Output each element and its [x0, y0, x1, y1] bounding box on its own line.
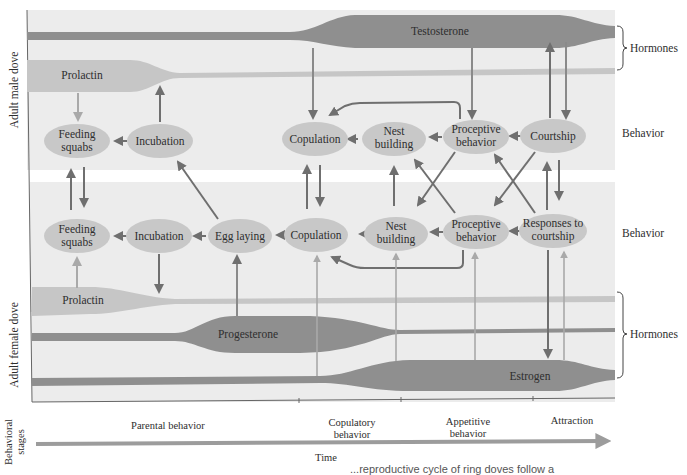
svg-text:Feeding: Feeding [58, 223, 95, 236]
svg-text:building: building [375, 138, 414, 151]
time-arrow [36, 441, 605, 444]
svg-text:behavior: behavior [456, 136, 496, 148]
svg-text:Behavioral: Behavioral [3, 419, 14, 465]
male-node-incubation: Incubation [127, 124, 193, 158]
male-node-nest-building: Nest building [362, 122, 426, 156]
female-node-responses-to-courtship: Responses to courtship [519, 214, 587, 248]
svg-text:Nest: Nest [385, 220, 407, 232]
progesterone-label: Progesterone [218, 328, 278, 341]
figure-caption-fragment: ...reproductive cycle of ring doves foll… [350, 463, 687, 475]
svg-text:Appetitive: Appetitive [446, 416, 491, 427]
svg-text:behavior: behavior [334, 429, 371, 440]
female-node-proceptive-behavior: Proceptive behavior [443, 215, 509, 249]
svg-text:behavior: behavior [456, 231, 496, 243]
male-prolactin-label: Prolactin [61, 69, 103, 81]
svg-text:Courtship: Courtship [530, 130, 576, 143]
svg-text:Copulation: Copulation [290, 229, 341, 242]
testosterone-label: Testosterone [411, 25, 469, 37]
male-side-label: Adult male dove [8, 52, 20, 129]
svg-text:Feeding: Feeding [58, 128, 95, 141]
stage-parental-behavior: Parental behavior [131, 420, 205, 431]
female-node-nest-building: Nest building [364, 217, 428, 251]
svg-text:Copulatory: Copulatory [328, 417, 376, 428]
svg-text:squabs: squabs [61, 236, 93, 249]
svg-text:building: building [377, 233, 416, 246]
female-prolactin-label: Prolactin [62, 294, 104, 306]
stage-appetitive-behavior: Appetitive behavior [446, 416, 491, 439]
male-hormones-label: Hormones [630, 42, 678, 54]
female-behavior-label: Behavior [622, 227, 664, 239]
svg-text:Copulation: Copulation [289, 133, 340, 146]
male-hormones-brace [617, 26, 627, 70]
female-node-copulation: Copulation [284, 218, 348, 252]
svg-text:Proceptive: Proceptive [451, 218, 500, 231]
female-hormones-label: Hormones [630, 328, 678, 340]
female-hormones-brace [617, 292, 627, 378]
svg-text:Responses to: Responses to [523, 217, 584, 230]
female-node-egg-laying: Egg laying [208, 219, 272, 253]
male-node-copulation: Copulation [282, 122, 348, 156]
svg-text:squabs: squabs [61, 141, 93, 154]
svg-text:courtship: courtship [532, 230, 575, 243]
svg-text:Nest: Nest [383, 125, 405, 137]
svg-text:behavior: behavior [450, 428, 487, 439]
svg-text:stages: stages [15, 429, 26, 455]
female-side-label: Adult female dove [8, 302, 20, 388]
svg-text:Incubation: Incubation [135, 135, 184, 147]
male-behavior-label: Behavior [622, 127, 664, 139]
female-node-feeding-squabs: Feeding squabs [44, 219, 110, 253]
svg-text:Egg laying: Egg laying [215, 230, 265, 243]
female-node-incubation: Incubation [126, 219, 192, 253]
stage-copulatory-behavior: Copulatory behavior [328, 417, 376, 440]
male-node-feeding-squabs: Feeding squabs [44, 124, 110, 158]
male-node-courtship: Courtship [520, 119, 586, 153]
svg-text:Proceptive: Proceptive [451, 123, 500, 136]
male-node-proceptive-behavior: Proceptive behavior [443, 120, 509, 154]
svg-text:Incubation: Incubation [134, 230, 183, 242]
time-label: Time [315, 452, 337, 463]
estrogen-label: Estrogen [510, 370, 551, 383]
stage-attraction: Attraction [551, 415, 594, 426]
behavioral-stages-axis-label: Behavioral stages [3, 419, 26, 465]
